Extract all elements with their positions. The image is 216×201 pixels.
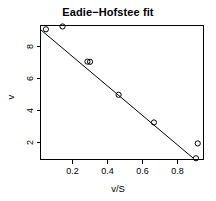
data-point bbox=[151, 120, 156, 125]
x-tick-label-06: 0.6 bbox=[136, 166, 149, 176]
x-tick-label-04: 0.4 bbox=[101, 166, 114, 176]
y-tick-label-6: 6 bbox=[25, 76, 35, 81]
data-point bbox=[43, 27, 48, 32]
data-points-group bbox=[43, 24, 200, 161]
y-axis-ticks bbox=[37, 47, 41, 143]
y-axis-tick-labels: 8 6 4 2 bbox=[25, 44, 35, 145]
x-tick-label-02: 0.2 bbox=[66, 166, 79, 176]
x-axis-title: v/S bbox=[111, 183, 125, 194]
eadie-hofstee-scatter-plot: 8 6 4 2 v 0.2 0.4 0.6 0.8 v/S bbox=[0, 0, 216, 201]
x-tick-label-08: 0.8 bbox=[171, 166, 184, 176]
y-tick-label-8: 8 bbox=[25, 44, 35, 49]
data-point bbox=[195, 141, 200, 146]
data-point bbox=[193, 156, 198, 161]
x-axis-tick-labels: 0.2 0.4 0.6 0.8 bbox=[66, 166, 184, 176]
fit-line bbox=[41, 30, 193, 158]
chart-container: Eadie−Hofstee fit 8 6 4 2 v 0. bbox=[0, 0, 216, 201]
data-point bbox=[60, 24, 65, 29]
y-axis-title: v bbox=[5, 94, 16, 99]
y-tick-label-2: 2 bbox=[25, 140, 35, 145]
x-axis-ticks bbox=[73, 160, 178, 164]
plot-frame bbox=[41, 26, 204, 160]
y-tick-label-4: 4 bbox=[25, 108, 35, 113]
